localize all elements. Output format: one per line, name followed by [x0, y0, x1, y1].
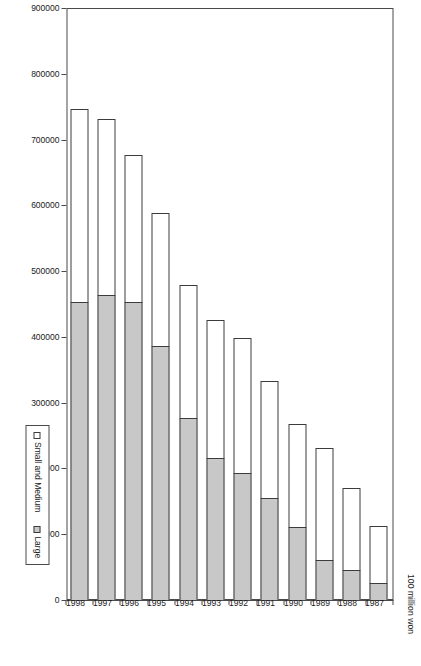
category-tick-label: 1988 — [338, 598, 357, 608]
value-tick — [61, 74, 66, 75]
legend-label-large: Large — [32, 536, 42, 558]
bar-segment-small-and-medium — [369, 526, 387, 584]
bar-segment-large — [206, 458, 224, 601]
bar-segment-small-and-medium — [315, 448, 333, 560]
value-tick — [61, 8, 66, 9]
chart-legend: Small and Medium Large — [25, 425, 49, 565]
value-tick — [61, 337, 66, 338]
plot-area — [66, 8, 393, 600]
category-tick-label: 1998 — [65, 598, 84, 608]
bar-row — [342, 9, 360, 601]
value-axis-title: 100 million won — [405, 574, 415, 634]
category-tick-label: 1993 — [201, 598, 220, 608]
category-tick-label: 1989 — [310, 598, 329, 608]
bar-segment-small-and-medium — [97, 119, 115, 297]
legend-swatch-large-icon — [34, 526, 41, 533]
value-tick — [61, 403, 66, 404]
value-tick — [61, 534, 66, 535]
category-tick — [92, 600, 93, 605]
bar-row — [70, 9, 88, 601]
bar-row — [315, 9, 333, 601]
value-tick-label: 700000 — [31, 135, 59, 145]
bar-segment-small-and-medium — [288, 424, 306, 527]
value-tick-label: 300000 — [31, 398, 59, 408]
bar-row — [369, 9, 387, 601]
category-tick — [201, 600, 202, 605]
bar-segment-small-and-medium — [233, 338, 251, 474]
value-tick-label: 600000 — [31, 200, 59, 210]
category-tick-label: 1996 — [120, 598, 139, 608]
chart-stage: 100 million won 010000020000030000040000… — [0, 0, 421, 666]
bar-row — [206, 9, 224, 601]
bar-segment-large — [342, 570, 360, 601]
value-tick — [61, 271, 66, 272]
category-tick-label: 1997 — [92, 598, 111, 608]
bar-segment-small-and-medium — [206, 320, 224, 459]
bar-segment-large — [260, 498, 278, 601]
bar-segment-small-and-medium — [151, 213, 169, 347]
bar-row — [97, 9, 115, 601]
bar-row — [151, 9, 169, 601]
value-tick-label: 900000 — [31, 3, 59, 13]
bar-row — [124, 9, 142, 601]
category-tick — [120, 600, 121, 605]
bar-row — [233, 9, 251, 601]
category-tick — [392, 600, 393, 605]
category-tick-label: 1992 — [229, 598, 248, 608]
bar-segment-large — [151, 346, 169, 601]
category-tick-label: 1987 — [365, 598, 384, 608]
bar-segment-large — [124, 302, 142, 601]
category-tick — [65, 600, 66, 605]
value-tick-label: 800000 — [31, 69, 59, 79]
category-tick-label: 1991 — [256, 598, 275, 608]
bar-segment-small-and-medium — [124, 155, 142, 304]
category-tick — [365, 600, 366, 605]
bar-segment-large — [288, 527, 306, 601]
bar-row — [288, 9, 306, 601]
bar-segment-small-and-medium — [70, 109, 88, 303]
value-tick — [61, 205, 66, 206]
value-tick — [61, 468, 66, 469]
value-tick-label: 400000 — [31, 332, 59, 342]
bar-segment-small-and-medium — [342, 488, 360, 572]
category-tick-label: 1994 — [174, 598, 193, 608]
category-tick — [229, 600, 230, 605]
value-tick-label: 0 — [54, 595, 59, 605]
legend-item-small-and-medium: Small and Medium — [32, 432, 42, 512]
legend-item-large: Large — [32, 526, 42, 558]
category-tick — [147, 600, 148, 605]
legend-label-small-and-medium: Small and Medium — [32, 442, 42, 512]
category-tick — [256, 600, 257, 605]
category-tick — [338, 600, 339, 605]
category-tick-label: 1990 — [283, 598, 302, 608]
bar-segment-large — [179, 418, 197, 601]
value-tick — [61, 140, 66, 141]
category-tick — [174, 600, 175, 605]
bar-row — [179, 9, 197, 601]
category-tick — [283, 600, 284, 605]
bar-series-group — [67, 9, 392, 599]
bar-segment-small-and-medium — [260, 381, 278, 499]
bar-segment-large — [233, 473, 251, 601]
legend-swatch-small-and-medium-icon — [34, 432, 41, 439]
value-tick-label: 500000 — [31, 266, 59, 276]
bar-segment-large — [70, 302, 88, 601]
bar-segment-large — [315, 560, 333, 601]
category-tick-label: 1995 — [147, 598, 166, 608]
bar-row — [260, 9, 278, 601]
bar-segment-large — [97, 295, 115, 601]
category-tick — [310, 600, 311, 605]
bar-segment-small-and-medium — [179, 285, 197, 419]
